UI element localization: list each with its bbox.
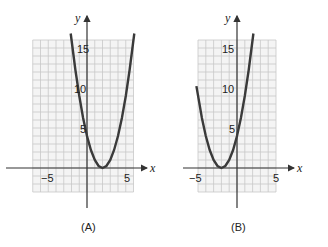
graph-b-y-tick-10: 10 [222, 83, 234, 95]
graph-a-caption: (A) [81, 221, 96, 233]
graph-b-y-tick-15: 15 [222, 43, 234, 55]
graph-b-y-axis-label: y [224, 11, 231, 25]
graph-a-x-tick-5: 5 [124, 172, 130, 184]
graph-a-y-tick-15: 15 [77, 43, 89, 55]
graph-a-x-axis-label: x [149, 161, 156, 175]
graph-b-x-axis-label: x [296, 161, 303, 175]
graph-b-caption: (B) [231, 221, 246, 233]
graph-b-x-tick-minus5: −5 [189, 172, 202, 184]
graph-b-y-tick-5: 5 [229, 123, 235, 135]
graph-a-y-tick-10: 10 [74, 83, 86, 95]
graph-a-x-tick-minus5: −5 [41, 172, 54, 184]
graph-a-y-tick-5: 5 [80, 123, 86, 135]
graph-a-y-axis-label: y [74, 11, 81, 25]
graph-b: y x 15 10 5 −5 5 (B) [183, 11, 303, 233]
graph-b-x-tick-5: 5 [273, 172, 279, 184]
chart-canvas: y x 15 10 5 −5 5 (A) y x 15 10 5 −5 5 (B… [0, 0, 328, 247]
graph-a: y x 15 10 5 −5 5 (A) [6, 11, 156, 233]
